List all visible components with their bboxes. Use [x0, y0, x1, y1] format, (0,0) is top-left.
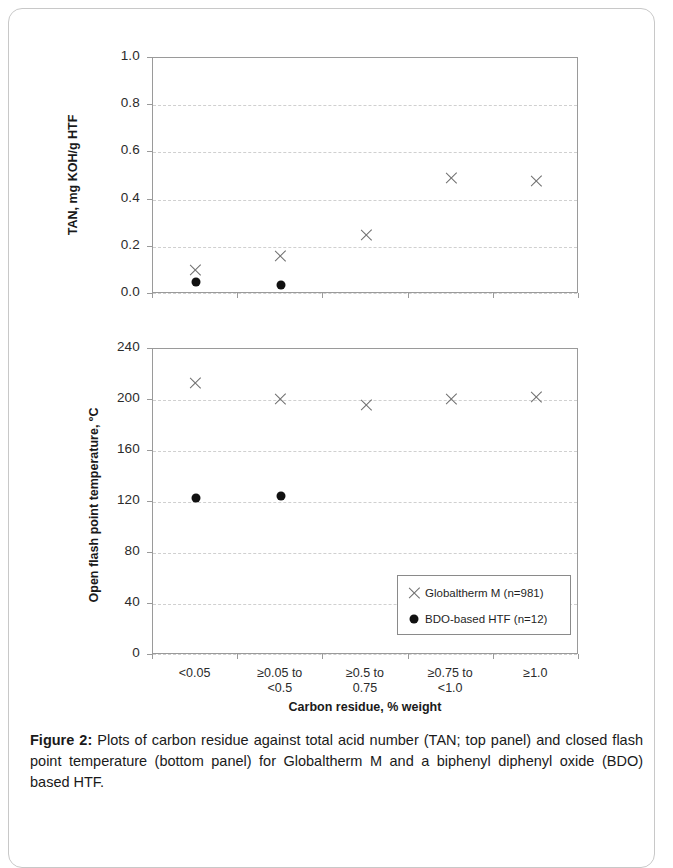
legend-label-bdo: BDO-based HTF (n=12): [425, 613, 547, 625]
y-tick-label: 200: [100, 390, 140, 405]
dot-marker-icon: [406, 611, 422, 627]
x-tick-mark: [322, 654, 323, 659]
x-marker-icon: [529, 390, 544, 405]
x-marker-icon: [444, 391, 459, 406]
legend: Globaltherm M (n=981) BDO-based HTF (n=1…: [397, 575, 571, 635]
gridline: [153, 400, 577, 401]
x-tick-label: ≥0.05 to <0.5: [237, 666, 322, 696]
x-tick-mark: [152, 654, 153, 659]
x-tick-mark: [578, 654, 579, 659]
x-tick-mark: [493, 654, 494, 659]
legend-label-globaltherm: Globaltherm M (n=981): [425, 587, 544, 599]
y-tick-label: 240: [100, 339, 140, 354]
x-tick-label: ≥0.75 to <1.0: [408, 666, 493, 696]
figure-caption-text: Plots of carbon residue against total ac…: [30, 732, 643, 790]
x-tick-mark: [408, 654, 409, 659]
y-tick-label: 80: [100, 543, 140, 558]
y-axis-title-bottom: Open flash point temperature, ºC: [87, 360, 101, 650]
y-tick-label: 40: [100, 594, 140, 609]
y-tick-label: 120: [100, 492, 140, 507]
x-tick-label: ≥1.0: [493, 666, 578, 681]
gridline: [153, 654, 577, 655]
gridline: [153, 451, 577, 452]
legend-item-bdo: BDO-based HTF (n=12): [406, 611, 547, 627]
gridline: [153, 553, 577, 554]
x-marker-icon: [273, 391, 288, 406]
x-tick-mark: [237, 654, 238, 659]
dot-marker-icon: [276, 491, 285, 500]
x-tick-label: <0.05: [152, 666, 237, 681]
x-marker-icon: [188, 376, 203, 391]
x-marker-icon: [406, 585, 422, 601]
y-tick-label: 0: [100, 645, 140, 660]
plot-area-bottom: Globaltherm M (n=981) BDO-based HTF (n=1…: [152, 348, 578, 654]
x-axis-title: Carbon residue, % weight: [152, 700, 578, 714]
y-tick-label: 160: [100, 441, 140, 456]
chart-panel-bottom: Open flash point temperature, ºC 2402001…: [0, 0, 673, 730]
figure-caption: Figure 2: Plots of carbon residue agains…: [30, 730, 643, 793]
gridline: [153, 502, 577, 503]
x-tick-label: ≥0.5 to 0.75: [322, 666, 407, 696]
figure-caption-label: Figure 2:: [30, 732, 92, 748]
legend-item-globaltherm: Globaltherm M (n=981): [406, 585, 544, 601]
